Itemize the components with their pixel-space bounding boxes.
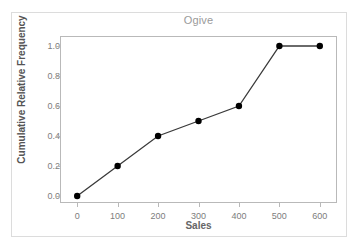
data-point-marker — [317, 43, 323, 49]
x-tick-mark — [77, 203, 78, 207]
data-point-marker — [236, 103, 242, 109]
data-point-marker — [114, 163, 120, 169]
plot-area — [61, 37, 336, 202]
data-point-marker — [74, 193, 80, 199]
x-tick-mark — [320, 203, 321, 207]
chart-title: Ogive — [60, 14, 337, 26]
x-tick-mark — [279, 203, 280, 207]
data-point-marker — [276, 43, 282, 49]
x-tick-mark — [199, 203, 200, 207]
x-tick-mark — [239, 203, 240, 207]
y-axis-title: Cumulative Relative Frequency — [16, 5, 27, 175]
x-tick-mark — [118, 203, 119, 207]
data-point-marker — [195, 118, 201, 124]
x-axis-title: Sales — [60, 220, 337, 231]
y-axis-ticks: 0.00.20.40.60.81.0 — [30, 36, 60, 203]
chart-canvas: Ogive Cumulative Relative Frequency 0.00… — [0, 0, 362, 250]
ogive-series — [61, 37, 336, 202]
x-tick-mark — [158, 203, 159, 207]
data-point-marker — [155, 133, 161, 139]
